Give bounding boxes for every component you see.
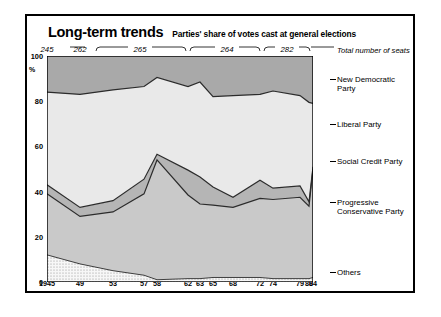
seat-bracket-lines xyxy=(25,40,365,54)
legend-label-new-democratic-party: New Democratic Party xyxy=(337,75,415,94)
legend-leader-line xyxy=(330,202,336,203)
y-tick-40: 40 xyxy=(25,188,43,197)
y-tick-20: 20 xyxy=(25,233,43,242)
subtitle: Parties' share of votes cast at general … xyxy=(172,29,356,39)
y-tick-60: 60 xyxy=(25,142,43,151)
legend-label-others: Others xyxy=(337,268,415,277)
seat-bracket xyxy=(264,47,310,51)
page-title: Long-term trends xyxy=(48,24,163,40)
legend-leader-line xyxy=(330,124,336,125)
legend-label-progressive-conservative-party: Progressive Conservative Party xyxy=(337,198,415,217)
seat-bracket xyxy=(190,47,260,51)
stacked-area-plot xyxy=(47,56,313,282)
y-axis-unit: % xyxy=(29,66,35,73)
legend-label-social-credit-party: Social Credit Party xyxy=(337,157,415,166)
seat-bracket xyxy=(96,47,186,51)
legend-leader-line xyxy=(330,272,336,273)
y-tick-100: 100 xyxy=(25,52,43,61)
legend-leader-line xyxy=(330,79,336,80)
title-row: Long-term trends Parties' share of votes… xyxy=(48,24,356,40)
y-tick-80: 80 xyxy=(25,97,43,106)
legend-leader-line xyxy=(330,161,336,162)
chart-page: Long-term trends Parties' share of votes… xyxy=(0,0,441,317)
legend-label-liberal-party: Liberal Party xyxy=(337,120,415,129)
